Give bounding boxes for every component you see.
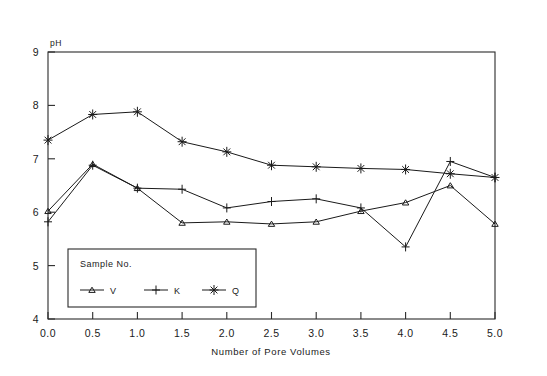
series-line-V — [48, 164, 495, 224]
data-point-K-9 — [446, 157, 454, 166]
x-tick-label: 0.0 — [40, 327, 56, 339]
chart-figure: 456789 0.00.51.01.52.02.53.03.54.04.55.0… — [0, 0, 547, 376]
y-tick-label: 7 — [33, 153, 39, 165]
series-V — [45, 161, 498, 226]
data-point-K-2 — [133, 184, 141, 193]
series-layer — [44, 107, 500, 252]
y-axis-ticks — [48, 52, 55, 319]
data-point-Q-2 — [133, 107, 142, 117]
y-tick-label: 8 — [33, 99, 39, 111]
data-point-Q-10 — [491, 172, 500, 182]
y-tick-label: 4 — [33, 313, 39, 325]
data-point-K-4 — [223, 203, 231, 212]
x-tick-label: 2.0 — [219, 327, 235, 339]
data-point-K-5 — [268, 197, 276, 206]
y-tick-label: 6 — [33, 206, 39, 218]
data-point-Q-9 — [446, 169, 455, 179]
data-point-K-3 — [178, 185, 186, 194]
data-point-K-8 — [402, 242, 410, 251]
x-tick-label: 4.0 — [398, 327, 414, 339]
data-point-Q-6 — [312, 162, 321, 172]
data-point-Q-7 — [356, 163, 365, 173]
series-Q — [44, 107, 500, 183]
legend-marker-Q — [210, 285, 219, 295]
data-point-Q-8 — [401, 164, 410, 174]
y-axis-tick-labels: 456789 — [33, 46, 39, 325]
x-axis-tick-labels: 0.00.51.01.52.02.53.03.54.04.55.0 — [40, 327, 503, 339]
x-axis-ticks — [48, 312, 495, 319]
x-tick-label: 3.5 — [353, 327, 369, 339]
legend-box — [68, 249, 256, 307]
ph-vs-pore-volumes-chart: 456789 0.00.51.01.52.02.53.03.54.04.55.0… — [0, 0, 547, 376]
y-tick-label: 5 — [33, 260, 39, 272]
x-tick-label: 3.0 — [308, 327, 324, 339]
data-point-Q-3 — [178, 137, 187, 147]
x-axis-title: Number of Pore Volumes — [211, 346, 330, 357]
y-tick-label: 9 — [33, 46, 39, 58]
x-tick-label: 1.0 — [129, 327, 145, 339]
y-axis-unit-label: pH — [50, 38, 62, 48]
series-K — [44, 157, 499, 251]
data-point-Q-0 — [44, 135, 53, 145]
chart-legend: Sample No. VKQ — [68, 249, 256, 307]
x-tick-label: 2.5 — [263, 327, 279, 339]
data-point-Q-4 — [222, 147, 231, 157]
data-point-Q-5 — [267, 160, 276, 170]
x-tick-label: 1.5 — [174, 327, 190, 339]
x-tick-label: 5.0 — [487, 327, 503, 339]
x-tick-label: 4.5 — [442, 327, 458, 339]
legend-label-K: K — [174, 286, 180, 296]
data-point-Q-1 — [88, 109, 97, 119]
x-tick-label: 0.5 — [85, 327, 101, 339]
data-point-K-6 — [312, 194, 320, 203]
legend-label-V: V — [110, 286, 116, 296]
legend-title: Sample No. — [80, 259, 132, 269]
legend-label-Q: Q — [232, 286, 239, 296]
